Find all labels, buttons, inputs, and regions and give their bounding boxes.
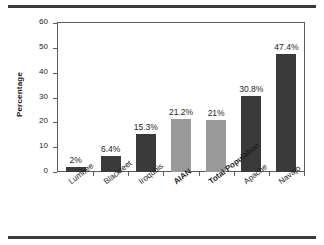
x-tick-mark xyxy=(163,172,164,176)
bar-value-label: 21.2% xyxy=(169,107,193,117)
y-tick-mark xyxy=(53,73,57,74)
bottom-decorative-rule xyxy=(8,236,316,239)
bar[interactable] xyxy=(206,120,226,172)
bar[interactable] xyxy=(276,54,296,172)
y-tick-label: 0 xyxy=(44,166,48,175)
y-tick-mark xyxy=(53,98,57,99)
y-tick-label: 40 xyxy=(39,67,48,76)
bar-slot: 47.4% xyxy=(276,23,296,172)
y-axis-title: Percentage xyxy=(15,65,24,125)
bar[interactable] xyxy=(171,119,191,172)
y-tick-label: 60 xyxy=(39,17,48,26)
bar-value-label: 30.8% xyxy=(239,84,263,94)
bar-slot: 21.2% xyxy=(171,23,191,172)
bars-layer: 2%6.4%15.3%21.2%21%30.8%47.4% xyxy=(58,23,304,172)
y-tick-label: 10 xyxy=(39,141,48,150)
bar-value-label: 15.3% xyxy=(134,122,158,132)
y-tick-label: 20 xyxy=(39,116,48,125)
y-tick-mark xyxy=(53,122,57,123)
bar-value-label: 6.4% xyxy=(101,144,120,154)
y-tick-label: 30 xyxy=(39,92,48,101)
x-tick-mark xyxy=(304,172,305,176)
x-tick-mark xyxy=(269,172,270,176)
x-tick-mark xyxy=(128,172,129,176)
bar-slot: 2% xyxy=(66,23,86,172)
bar-value-label: 47.4% xyxy=(274,42,298,52)
top-decorative-rule xyxy=(8,5,316,8)
x-tick-mark xyxy=(234,172,235,176)
bar-slot: 15.3% xyxy=(136,23,156,172)
x-tick-mark xyxy=(93,172,94,176)
bar-value-label: 2% xyxy=(69,155,81,165)
x-tick-mark xyxy=(199,172,200,176)
y-tick-mark xyxy=(53,172,57,173)
bar-chart-figure: Percentage 6050403020100 2%6.4%15.3%21.2… xyxy=(0,12,324,234)
y-tick-label: 50 xyxy=(39,42,48,51)
y-tick-mark xyxy=(53,23,57,24)
bar-value-label: 21% xyxy=(208,108,225,118)
y-tick-mark xyxy=(53,147,57,148)
bar-slot: 21% xyxy=(206,23,226,172)
bar-slot: 6.4% xyxy=(101,23,121,172)
y-tick-mark xyxy=(53,48,57,49)
